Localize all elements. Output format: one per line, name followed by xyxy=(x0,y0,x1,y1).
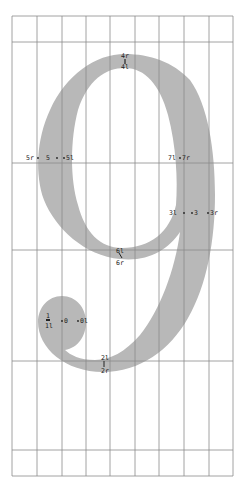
label-3: 3 xyxy=(194,209,198,217)
label-4l: 4l xyxy=(121,63,129,71)
dot-0 xyxy=(61,320,63,322)
dot-0l xyxy=(77,320,79,322)
label-3r: 3r xyxy=(210,209,218,217)
label-1l: 1l xyxy=(45,322,53,330)
dot-7 xyxy=(179,157,181,159)
label-2l: 2l xyxy=(101,354,109,362)
label-7r: 7r xyxy=(182,154,190,162)
dot-5r xyxy=(37,157,39,159)
label-6l: 6l xyxy=(116,247,124,255)
label-5l: 5l xyxy=(66,154,74,162)
label-3l: 3l xyxy=(169,209,177,217)
dot-3 xyxy=(191,212,193,214)
label-1: 1 xyxy=(46,312,50,320)
dot-3l xyxy=(183,212,185,214)
label-4r: 4r xyxy=(121,52,129,60)
diagram-canvas: 4r 4l 5r 5 5l 7l 7r 3l 3 3r 6l 6r 1 1l 0… xyxy=(0,0,243,484)
label-5r: 5r xyxy=(26,154,34,162)
label-5: 5 xyxy=(46,154,50,162)
label-0l: 0l xyxy=(80,317,88,325)
dot-5 xyxy=(56,157,58,159)
glyph-diagram: 4r 4l 5r 5 5l 7l 7r 3l 3 3r 6l 6r 1 1l 0… xyxy=(0,0,243,484)
dot-3r xyxy=(207,212,209,214)
label-0: 0 xyxy=(64,317,68,325)
dot-5l xyxy=(63,157,65,159)
label-2r: 2r xyxy=(101,367,109,375)
label-6r: 6r xyxy=(116,259,124,267)
label-7l: 7l xyxy=(168,154,176,162)
